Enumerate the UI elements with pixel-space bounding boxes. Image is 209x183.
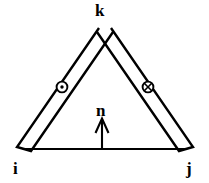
normal-vector-label: n <box>96 102 105 119</box>
vertex-label-j: j <box>186 160 192 177</box>
diagram-canvas <box>0 0 209 183</box>
figure-container: i j k n <box>0 0 209 183</box>
circle-dot-icon <box>57 82 68 93</box>
vertex-label-i: i <box>13 160 18 177</box>
circle-cross-icon <box>143 82 154 93</box>
vertex-label-k: k <box>95 2 104 19</box>
normal-vector-arrow <box>96 119 109 151</box>
